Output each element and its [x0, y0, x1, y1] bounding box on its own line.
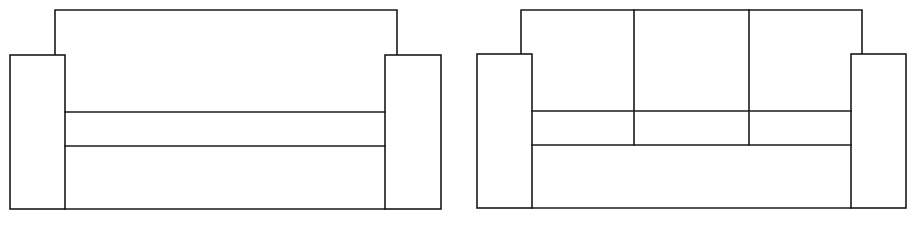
left-armrest	[477, 54, 532, 208]
sofa-single-cushion	[10, 10, 441, 209]
left-armrest	[10, 55, 65, 209]
sofa-back	[521, 10, 862, 54]
right-armrest	[385, 55, 441, 209]
right-armrest	[851, 54, 906, 208]
sofa-back	[55, 10, 397, 55]
sofa-diagram-canvas	[0, 0, 913, 226]
sofa-three-cushion	[477, 10, 906, 208]
